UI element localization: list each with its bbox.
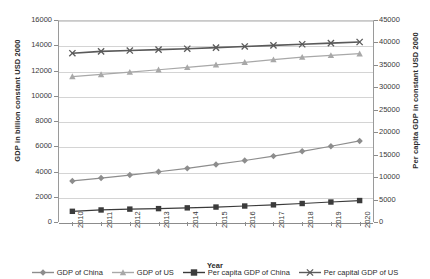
legend-label: Per capita GDP of China (208, 268, 290, 277)
legend-marker-triangle-icon (112, 268, 134, 277)
y-axis-left-tick-mark (54, 96, 58, 97)
plot-area (58, 20, 374, 222)
x-axis-tick-label: 2012 (133, 211, 142, 228)
legend-marker-cross-icon (299, 268, 321, 277)
legend-label: GDP of US (137, 268, 174, 277)
y-axis-right-tick-mark (374, 132, 378, 133)
x-axis-tick-label: 2019 (334, 211, 343, 228)
y-axis-left-tick-label: 4000 (4, 167, 52, 176)
x-axis-tick-mark (159, 222, 160, 226)
y-axis-right-tick-label: 45000 (379, 15, 425, 24)
gridline (59, 198, 373, 199)
x-axis-tick-label: 2017 (277, 211, 286, 228)
y-axis-right-tick-mark (374, 65, 378, 66)
y-axis-left-tick-label: 2000 (4, 192, 52, 201)
gridline (59, 21, 373, 22)
y-axis-right-tick-label: 35000 (379, 60, 425, 69)
y-axis-left-tick-label: 12000 (4, 66, 52, 75)
x-axis-tick-label: 2013 (162, 211, 171, 228)
x-axis-tick-mark (187, 222, 188, 226)
y-axis-left-tick-mark (54, 45, 58, 46)
y-axis-left-tick-mark (54, 172, 58, 173)
x-axis-tick-mark (72, 222, 73, 226)
y-axis-right-tick-mark (374, 155, 378, 156)
x-axis-tick-label: 2018 (306, 211, 315, 228)
y-axis-left-tick-mark (54, 20, 58, 21)
y-axis-left-tick-label: 8000 (4, 116, 52, 125)
chart-legend: GDP of ChinaGDP of USPer capita GDP of C… (0, 268, 430, 277)
y-axis-right-tick-label: 5000 (379, 195, 425, 204)
y-axis-right-tick-mark (374, 20, 378, 21)
y-axis-right-tick-label: 15000 (379, 150, 425, 159)
y-axis-right-tick-mark (374, 87, 378, 88)
x-axis-tick-label: 2015 (220, 211, 229, 228)
x-axis-tick-mark (331, 222, 332, 226)
gridline (59, 46, 373, 47)
legend-marker-diamond-icon (32, 268, 54, 277)
gridline (59, 122, 373, 123)
gridline (59, 72, 373, 73)
legend-label: Per capital GDP of US (324, 268, 398, 277)
y-axis-right-tick-label: 30000 (379, 82, 425, 91)
x-axis-tick-mark (130, 222, 131, 226)
y-axis-left-tick-mark (54, 197, 58, 198)
y-axis-left-tick-label: 10000 (4, 91, 52, 100)
gridline (59, 97, 373, 98)
y-axis-left-tick-label: 14000 (4, 40, 52, 49)
x-axis-tick-mark (101, 222, 102, 226)
y-axis-right-tick-mark (374, 42, 378, 43)
x-axis-tick-label: 2020 (363, 211, 372, 228)
legend-item[interactable]: Per capita GDP of China (183, 268, 290, 277)
gridline (59, 147, 373, 148)
y-axis-left-tick-mark (54, 146, 58, 147)
x-axis-tick-label: 2011 (105, 212, 114, 228)
y-axis-right-tick-label: 10000 (379, 172, 425, 181)
y-axis-right-tick-label: 40000 (379, 37, 425, 46)
gdp-comparison-chart: GDP in billion constant USD 2000 Per cap… (0, 0, 430, 279)
y-axis-right-tick-label: 25000 (379, 105, 425, 114)
x-axis-tick-mark (302, 222, 303, 226)
y-axis-left-tick-mark (54, 71, 58, 72)
legend-item[interactable]: Per capital GDP of US (299, 268, 398, 277)
gridline (59, 173, 373, 174)
y-axis-left-tick-label: 0 (4, 217, 52, 226)
legend-item[interactable]: GDP of US (112, 268, 174, 277)
x-axis-tick-mark (360, 222, 361, 226)
legend-marker-square-icon (183, 268, 205, 277)
x-axis-tick-mark (245, 222, 246, 226)
y-axis-left-tick-mark (54, 121, 58, 122)
x-axis-tick-label: 2014 (191, 211, 200, 228)
y-axis-right-tick-mark (374, 177, 378, 178)
y-axis-right-tick-mark (374, 200, 378, 201)
legend-label: GDP of China (57, 268, 103, 277)
y-axis-right-tick-label: 20000 (379, 127, 425, 136)
y-axis-left-tick-label: 16000 (4, 15, 52, 24)
x-axis-tick-mark (216, 222, 217, 226)
y-axis-right-tick-mark (374, 222, 378, 223)
y-axis-right-tick-label: 0 (379, 217, 425, 226)
y-axis-right-tick-mark (374, 110, 378, 111)
legend-item[interactable]: GDP of China (32, 268, 103, 277)
y-axis-left-tick-mark (54, 222, 58, 223)
y-axis-left-tick-label: 6000 (4, 141, 52, 150)
x-axis-tick-mark (273, 222, 274, 226)
x-axis-tick-label: 2016 (248, 211, 257, 228)
x-axis-tick-label: 2010 (76, 211, 85, 228)
